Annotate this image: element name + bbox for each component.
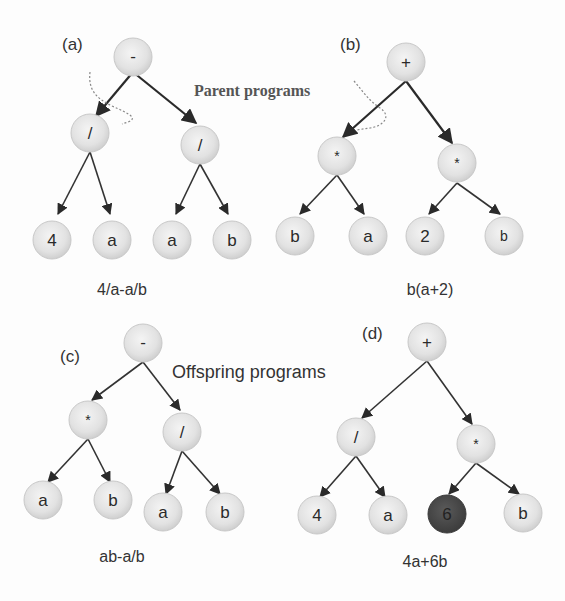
svg-text:*: * — [85, 412, 91, 428]
svg-text:b: b — [500, 228, 508, 244]
tree-node: / — [181, 126, 219, 164]
tree-a: (a) - / / 4 a a — [33, 35, 251, 298]
svg-text:/: / — [198, 136, 203, 155]
tree-node: b — [485, 217, 523, 255]
svg-text:*: * — [473, 436, 479, 452]
tree-node: 4 — [33, 221, 71, 259]
tree-node: 4 — [298, 496, 336, 534]
svg-text:b: b — [518, 504, 527, 523]
tree-d: (d) + / * 4 a 6 — [298, 323, 542, 570]
tree-node: b — [94, 481, 132, 519]
tree-node: b — [213, 221, 251, 259]
svg-text:a: a — [38, 491, 48, 510]
svg-text:+: + — [422, 333, 432, 352]
tree-node: a — [24, 481, 62, 519]
svg-text:a: a — [107, 231, 117, 250]
svg-text:6: 6 — [442, 505, 451, 524]
svg-text:a: a — [363, 227, 373, 246]
tree-node: a — [349, 217, 387, 255]
svg-text:*: * — [334, 148, 340, 164]
tree-c: (c) - * / a b a — [24, 324, 244, 565]
tree-c-expression: ab-a/b — [99, 548, 144, 565]
svg-text:-: - — [140, 333, 146, 352]
tree-node: * — [318, 137, 356, 175]
svg-text:a: a — [167, 231, 177, 250]
svg-text:+: + — [401, 53, 411, 72]
tree-node: / — [337, 418, 375, 456]
svg-text:b: b — [290, 227, 299, 246]
tree-node: b — [206, 493, 244, 531]
tree-node: a — [93, 221, 131, 259]
svg-text:b: b — [220, 503, 229, 522]
tree-node: / — [163, 413, 201, 451]
svg-text:/: / — [88, 124, 93, 143]
parent-programs-label: Parent programs — [194, 82, 310, 100]
tree-node: 2 — [406, 217, 444, 255]
tree-d-expression: 4a+6b — [403, 553, 448, 570]
svg-text:4: 4 — [47, 231, 56, 250]
svg-text:b: b — [108, 491, 117, 510]
tree-node: + — [387, 43, 425, 81]
svg-text:-: - — [130, 47, 136, 66]
offspring-programs-label: Offspring programs — [172, 362, 326, 382]
tree-node: b — [504, 494, 542, 532]
tree-b-expression: b(a+2) — [407, 281, 454, 298]
tree-node: * — [69, 401, 107, 439]
tree-node: b — [276, 217, 314, 255]
tree-node: * — [457, 425, 495, 463]
tree-node: + — [408, 323, 446, 361]
tree-node: * — [438, 144, 476, 182]
svg-text:4: 4 — [312, 506, 321, 525]
tree-node: - — [124, 324, 162, 362]
tree-a-expression: 4/a-a/b — [97, 281, 147, 298]
tree-c-tag: (c) — [60, 347, 80, 366]
tree-node: - — [114, 38, 152, 76]
svg-text:*: * — [454, 155, 460, 171]
genetic-programming-crossover-diagram: (a) - / / 4 a a — [0, 0, 565, 601]
tree-b-tag: (b) — [340, 35, 361, 54]
svg-text:/: / — [180, 423, 185, 442]
tree-node-highlighted: 6 — [428, 495, 466, 533]
svg-text:a: a — [383, 506, 393, 525]
tree-node: / — [71, 114, 109, 152]
tree-b: (b) + * * b a 2 — [276, 35, 523, 298]
tree-node: a — [153, 221, 191, 259]
svg-text:b: b — [227, 231, 236, 250]
tree-d-tag: (d) — [362, 324, 383, 343]
tree-a-tag: (a) — [62, 35, 83, 54]
svg-text:a: a — [158, 503, 168, 522]
svg-text:2: 2 — [420, 227, 429, 246]
tree-node: a — [144, 493, 182, 531]
tree-node: a — [369, 496, 407, 534]
svg-text:/: / — [354, 428, 359, 447]
